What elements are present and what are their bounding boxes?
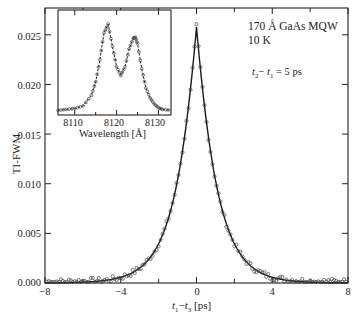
x-tick-neg8: −8 [35, 286, 55, 297]
x-tick-8: 8 [338, 286, 354, 297]
y-axis-label: TI-FWM [10, 134, 22, 174]
plot-area [0, 0, 354, 315]
delay-value: = 5 ps [273, 66, 301, 77]
delay-annotation: t2− t1 = 5 ps [252, 66, 302, 80]
inset-x-tick-8110: 8110 [58, 117, 88, 128]
sample-annotation: 170 Å GaAs MQW [248, 20, 338, 32]
x-label-unit: [ps] [191, 299, 211, 311]
y-tick-0.025: 0.025 [1, 31, 41, 42]
x-tick-neg4: −4 [111, 286, 131, 297]
x-tick-0: 0 [187, 286, 207, 297]
y-tick-0.005: 0.005 [1, 228, 41, 239]
x-axis-label: t1−t3 [ps] [172, 299, 211, 314]
inset-plot [57, 10, 171, 115]
delay-minus: − [258, 66, 267, 77]
inset-x-tick-8130: 8130 [140, 117, 170, 128]
y-tick-0.020: 0.020 [1, 80, 41, 91]
temperature-annotation: 10 K [248, 34, 271, 46]
x-tick-4: 4 [262, 286, 282, 297]
inset-x-axis-label: Wavelength [Å] [79, 128, 146, 139]
inset-x-tick-8120: 8120 [99, 117, 129, 128]
y-tick-0.010: 0.010 [1, 179, 41, 190]
